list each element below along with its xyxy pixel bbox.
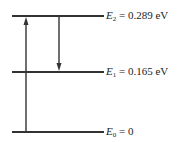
up-arrow-icon bbox=[24, 17, 29, 132]
level-e2-label: E2 = 0.289 eV bbox=[106, 9, 168, 25]
level-e1-label: E1 = 0.165 eV bbox=[106, 65, 168, 81]
down-arrow-icon bbox=[57, 16, 62, 71]
level-e0-label: E0 = 0 bbox=[106, 125, 133, 141]
